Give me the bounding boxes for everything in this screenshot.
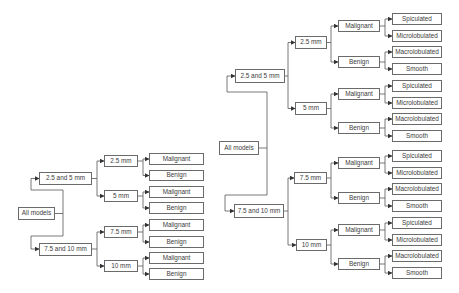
- left-root-node: All models: [18, 207, 55, 220]
- right-shape-node: Spiculated: [392, 13, 442, 25]
- right-shape-node: Spiculated: [392, 80, 442, 92]
- right-shape-node: Macrolobulated: [392, 113, 442, 125]
- right-root-node: All models: [219, 141, 259, 155]
- right-group-node: 2.5 and 5 mm: [235, 69, 285, 83]
- right-class-node: Benign: [338, 56, 380, 68]
- right-class-node: Malignant: [338, 224, 380, 236]
- right-class-node: Malignant: [338, 157, 380, 169]
- right-shape-node: Smooth: [392, 267, 442, 279]
- left-size-node: 7.5 mm: [104, 226, 138, 238]
- right-size-node: 5 mm: [295, 102, 327, 115]
- right-shape-node: Smooth: [392, 63, 442, 75]
- right-group-node: 7.5 and 10 mm: [234, 204, 284, 218]
- left-class-node: Malignant: [149, 186, 204, 198]
- right-shape-node: Smooth: [392, 130, 442, 142]
- right-size-node: 2.5 mm: [295, 36, 327, 49]
- left-class-node: Malignant: [149, 219, 204, 231]
- right-shape-node: Microlobulated: [392, 97, 442, 109]
- left-class-node: Malignant: [149, 252, 204, 264]
- left-size-node: 2.5 mm: [104, 155, 138, 167]
- left-size-node: 5 mm: [104, 190, 138, 202]
- left-class-node: Benign: [149, 236, 204, 248]
- right-class-node: Benign: [338, 122, 380, 134]
- right-shape-node: Microlobulated: [392, 234, 442, 246]
- right-shape-node: Microlobulated: [392, 30, 442, 42]
- right-class-node: Malignant: [338, 20, 380, 32]
- left-class-node: Benign: [149, 268, 204, 280]
- right-size-node: 10 mm: [296, 239, 327, 251]
- right-size-node: 7.5 mm: [294, 172, 327, 184]
- left-class-node: Benign: [149, 170, 204, 181]
- right-shape-node: Macrolobulated: [392, 183, 442, 195]
- left-class-node: Benign: [149, 202, 204, 214]
- right-shape-node: Macrolobulated: [392, 46, 442, 58]
- right-shape-node: Smooth: [392, 200, 442, 212]
- right-shape-node: Microlobulated: [392, 167, 442, 179]
- left-class-node: Malignant: [149, 153, 204, 165]
- right-class-node: Malignant: [338, 88, 380, 100]
- right-class-node: Benign: [338, 258, 380, 270]
- right-shape-node: Spiculated: [392, 150, 442, 162]
- right-shape-node: Spiculated: [392, 217, 442, 229]
- right-class-node: Benign: [338, 192, 380, 204]
- left-group-node: 7.5 and 10 mm: [39, 243, 92, 256]
- left-size-node: 10 mm: [104, 260, 138, 272]
- left-group-node: 2.5 and 5 mm: [39, 172, 92, 185]
- right-shape-node: Macrolobulated: [392, 250, 442, 262]
